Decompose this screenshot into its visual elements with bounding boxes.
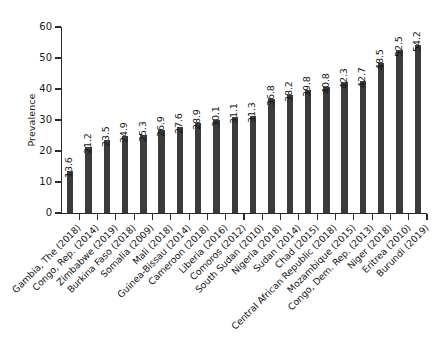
bar-value-label: 30.1 <box>210 106 221 127</box>
y-axis-tick-label: 40 <box>26 83 52 94</box>
y-axis-tick-label: 10 <box>26 176 52 187</box>
bar-value-label: 36.8 <box>265 85 276 106</box>
bar <box>158 130 164 213</box>
bar-value-label: 42.7 <box>356 67 367 88</box>
bar <box>232 117 238 213</box>
bar <box>104 140 110 213</box>
bar-value-label: 40.8 <box>320 73 331 94</box>
y-axis-tick-label: 50 <box>26 52 52 63</box>
x-axis-tick <box>152 214 153 220</box>
x-axis-tick <box>408 214 409 220</box>
bar-value-label: 26.9 <box>155 116 166 137</box>
x-axis-tick <box>243 214 244 220</box>
bar <box>323 87 329 213</box>
x-axis-tick <box>426 214 427 220</box>
y-axis-tick-label: 30 <box>26 114 52 125</box>
x-axis-tick <box>390 214 391 220</box>
bar-value-label: 48.5 <box>374 49 385 70</box>
bar-value-label: 23.5 <box>100 126 111 147</box>
bar <box>341 82 347 213</box>
x-axis-tick <box>280 214 281 220</box>
x-axis-tick <box>335 214 336 220</box>
bar <box>305 90 311 213</box>
x-axis-tick <box>97 214 98 220</box>
x-axis-tick <box>262 214 263 220</box>
x-axis-tick <box>134 214 135 220</box>
x-axis-tick <box>225 214 226 220</box>
bar-value-label: 31.1 <box>228 103 239 124</box>
bar-value-label: 24.9 <box>118 122 129 143</box>
x-axis-tick <box>372 214 373 220</box>
bar <box>213 120 219 213</box>
x-axis-tick <box>353 214 354 220</box>
x-axis-tick <box>207 214 208 220</box>
x-axis-tick <box>170 214 171 220</box>
bar <box>177 127 183 213</box>
bar-value-label: 28.9 <box>191 110 202 131</box>
bar <box>268 99 274 213</box>
bar-value-label: 39.8 <box>301 76 312 97</box>
bar-value-label: 21.2 <box>82 134 93 155</box>
bar <box>378 63 384 213</box>
bar <box>396 50 402 213</box>
bar <box>140 135 146 213</box>
bar-value-label: 25.3 <box>137 121 148 142</box>
y-axis-tick-label: 0 <box>26 207 52 218</box>
x-axis-tick <box>115 214 116 220</box>
x-axis-tick <box>79 214 80 220</box>
y-axis-tick-label: 60 <box>26 21 52 32</box>
bar <box>360 81 366 213</box>
bar-value-label: 52.5 <box>393 36 404 57</box>
y-axis-tick-label: 20 <box>26 145 52 156</box>
bar-value-label: 38.2 <box>283 81 294 102</box>
bar <box>122 136 128 213</box>
plot-area: 13.621.223.524.925.326.927.628.930.131.1… <box>61 27 427 213</box>
bar <box>415 45 421 213</box>
bar <box>250 116 256 213</box>
bar <box>195 123 201 213</box>
bar-value-label: 31.3 <box>246 102 257 123</box>
bar-chart: Prevalence 0102030405060 13.621.223.524.… <box>0 0 441 344</box>
x-axis-tick <box>298 214 299 220</box>
bar <box>287 95 293 213</box>
x-axis-tick <box>189 214 190 220</box>
bar-value-label: 54.2 <box>411 31 422 52</box>
bar <box>85 147 91 213</box>
bar-value-label: 42.3 <box>338 68 349 89</box>
bar-value-label: 13.6 <box>63 157 74 178</box>
x-axis-tick <box>317 214 318 220</box>
bar-value-label: 27.6 <box>173 114 184 135</box>
